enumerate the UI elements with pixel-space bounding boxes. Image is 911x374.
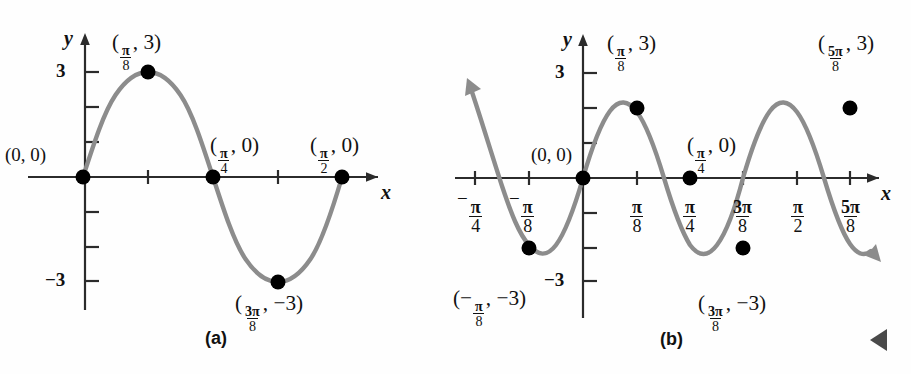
point-label-origin-b: (0, 0)	[531, 145, 572, 164]
y-axis-label-b: y	[563, 29, 572, 49]
panel-b: y x 3 −3 −π4 −π8 π8 π4 3π8 π2 5π8 (−π8, …	[455, 0, 911, 374]
fraction-5pi-8-max-b: 5π8	[826, 44, 845, 73]
fraction-pi-8-minleft-b: π8	[473, 299, 485, 328]
point-label-zero-pi-4-b: (π4, 0)	[687, 135, 736, 175]
x-tick-label-pi-4-b: π4	[682, 189, 698, 235]
fraction-3pi-8-b: 3π8	[731, 198, 754, 235]
point-origin	[76, 170, 91, 185]
fraction-3pi-8-a: 3π8	[243, 304, 262, 333]
fraction-pi-8-a: π8	[120, 43, 132, 72]
point-min-left	[522, 241, 537, 256]
point-label-zero-pi-4-a: (π4, 0)	[210, 135, 259, 175]
fraction-pi-8-b: π8	[630, 198, 644, 235]
x-tick-label-neg-pi-8-b: −π8	[509, 189, 536, 235]
x-tick-label-5pi-8-b: 5π8	[838, 189, 863, 235]
point-min	[271, 275, 286, 290]
fraction-neg-pi-8-b: π8	[521, 198, 535, 235]
point-origin	[576, 171, 591, 186]
y-tick-label-neg3-a: −3	[45, 270, 65, 289]
point-label-min-b: (3π8, −3)	[698, 293, 766, 333]
fraction-pi-8-max-b: π8	[615, 44, 627, 73]
x-tick-label-3pi-8-b: 3π8	[730, 189, 755, 235]
caption-a: (a)	[205, 329, 227, 347]
point-label-origin-a-text: (0, 0)	[5, 144, 46, 165]
panel-a: y x 3 −3 (0, 0) (π8, 3) (π4, 0) (3π8, −3…	[0, 0, 455, 374]
point-label-min-left-b: (−π8, −3)	[453, 288, 526, 328]
x-tick-label-neg-pi-4-b: −π4	[457, 189, 484, 235]
point-label-max-right-b: (5π8, 3)	[818, 33, 874, 73]
fraction-pi-4-a: π4	[218, 146, 230, 175]
y-axis-label-a: y	[64, 28, 73, 48]
y-tick-label-3-a: 3	[56, 61, 66, 80]
fraction-pi-2-a: π2	[318, 146, 330, 175]
left-triangle-icon	[870, 329, 887, 351]
fraction-pi-2-b: π2	[791, 198, 805, 235]
fraction-pi-4-zero-b: π4	[695, 146, 707, 175]
point-max-right	[843, 101, 858, 116]
point-min	[736, 241, 751, 256]
y-tick-label-neg3-b: −3	[544, 270, 564, 289]
x-axis-label-a: x	[381, 182, 391, 202]
point-label-max-a: (π8, 3)	[112, 32, 161, 72]
x-axis-label-b: x	[881, 183, 891, 203]
point-label-origin-a: (0, 0)	[5, 145, 46, 164]
x-tick-label-pi-2-b: π2	[790, 189, 806, 235]
caption-b: (b)	[660, 330, 683, 348]
point-max	[630, 101, 645, 116]
x-tick-label-pi-8-b: π8	[629, 189, 645, 235]
point-label-max-b: (π8, 3)	[607, 33, 656, 73]
fraction-5pi-8-b: 5π8	[839, 198, 862, 235]
point-label-min-a: (3π8, −3)	[235, 293, 303, 333]
fraction-3pi-8-min-b: 3π8	[706, 304, 725, 333]
fraction-pi-4-b: π4	[683, 198, 697, 235]
fraction-neg-pi-4-b: π4	[469, 198, 483, 235]
point-label-origin-b-text: (0, 0)	[531, 144, 572, 165]
point-label-zero-pi-2-a: (π2, 0)	[310, 135, 359, 175]
figure-container: y x 3 −3 (0, 0) (π8, 3) (π4, 0) (3π8, −3…	[0, 0, 911, 374]
y-tick-label-3-b: 3	[555, 62, 565, 81]
